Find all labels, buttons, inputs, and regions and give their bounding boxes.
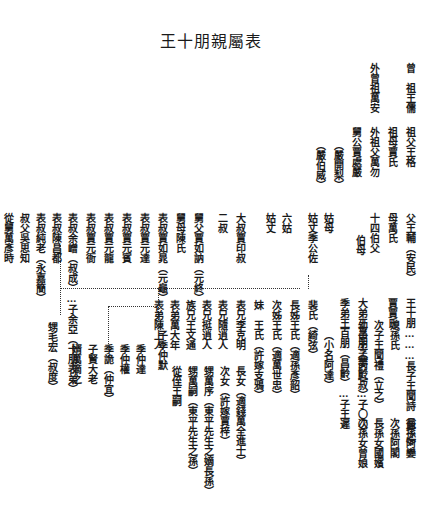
connector-vertical	[158, 288, 159, 328]
connector-vertical	[308, 275, 309, 289]
relative-entry: 父王輔（安民）	[404, 213, 415, 283]
connector-vertical	[60, 245, 61, 315]
relative-entry: 次女（許嫁賈梓）	[218, 366, 229, 446]
relative-entry: 季弟王百朋（昌齡）…子王遲	[338, 298, 349, 429]
relative-entry: 祖母賈氏	[386, 127, 397, 167]
relative-entry: 母萬氏	[386, 213, 397, 243]
relative-entry: 表叔賈元賓	[120, 213, 131, 263]
relative-entry: 六姑	[280, 213, 291, 233]
relative-entry: 裴氏（綺弦）	[306, 300, 317, 360]
relative-entry: 季仲達	[134, 344, 145, 374]
relative-entry: 長姊王氏（適孫彥韶）	[288, 300, 299, 400]
relative-entry: 大弟王昌朋（夢齡）…子〇〇	[356, 298, 367, 429]
relative-entry: 子賢大老	[86, 344, 97, 384]
relative-entry: 曾 祖王儒	[404, 63, 415, 113]
relative-entry: 子季仲默	[156, 330, 167, 370]
relative-entry: 從舅萬彥時	[2, 213, 13, 263]
relative-entry: 伯母	[354, 235, 365, 255]
relative-entry: 甥萬嗣（東平先生之孫）	[186, 366, 197, 476]
relative-entry: 大叔賈印叔	[234, 213, 245, 263]
relative-entry: 外曾祖萬安	[368, 63, 379, 113]
relative-entry: （嚴伯威）	[314, 140, 325, 190]
relative-entry: 族兄王文通	[184, 300, 195, 350]
relative-entry: 姑母	[322, 213, 333, 233]
relative-entry: 表兄挺逍人	[200, 300, 211, 350]
relative-entry: 表叔賈元衙	[84, 213, 95, 263]
relative-entry: 叔父吳思知	[18, 213, 29, 263]
relative-entry: 長孫阿孌	[404, 418, 415, 458]
relative-entry: 姑丈季公佐	[306, 213, 317, 263]
relative-entry: 表叔純老（永嘉簡）	[34, 213, 45, 303]
relative-entry: 二叔	[216, 213, 227, 233]
relative-entry: 次子王聞禮（立之）	[372, 320, 383, 410]
relative-entry: 舅公賈處嚴	[350, 127, 361, 177]
relative-entry: 次孫阿閣	[388, 418, 399, 458]
relative-entry: 長孫女國嬪	[372, 418, 383, 468]
relative-entry: 舅父賈如訥（元終）	[192, 213, 203, 303]
relative-entry: 表叔賈元龍	[102, 213, 113, 263]
connector-horizontal	[60, 288, 300, 289]
relative-entry: 姑丈	[264, 213, 275, 233]
relative-entry: （嚴開梨）	[332, 140, 343, 190]
relative-entry: 甥毛宏（叔度）	[46, 322, 57, 392]
relative-entry: 賈賈氏	[386, 298, 397, 328]
page-title: 王十朋親屬表	[0, 28, 421, 52]
relative-entry: 季仲權	[118, 344, 129, 374]
relative-entry: 從侄王嗣	[170, 366, 181, 406]
relative-entry: 祖父王格	[404, 127, 415, 167]
connector-vertical	[108, 306, 109, 356]
relative-entry: 表叔賈元達	[138, 213, 149, 263]
relative-entry: 婿萬滴之	[70, 344, 81, 384]
relative-entry: 表兄隨逍人	[216, 300, 227, 350]
relative-entry: 甥萬序（東平先生之嫡長孫）	[202, 366, 213, 496]
relative-entry: （小名阿達）	[322, 330, 333, 390]
relative-entry: 次孫女曾娘	[356, 418, 367, 468]
relative-entry: 外祖父萬勿	[368, 127, 379, 177]
relative-entry: 舅母陳氏	[174, 213, 185, 253]
relative-entry: 次姊王氏（適萬世忠）	[270, 300, 281, 400]
connector-horizontal	[108, 306, 154, 307]
relative-entry: 十四伯父	[368, 213, 379, 253]
relative-entry: 表兄李克明	[234, 300, 245, 350]
relative-entry: 表弟萬大年	[168, 300, 179, 350]
relative-entry: 長女（適錢萬全進士）	[234, 366, 245, 466]
relative-entry: 妹 王氏（許嫁支鴉）	[252, 300, 263, 400]
